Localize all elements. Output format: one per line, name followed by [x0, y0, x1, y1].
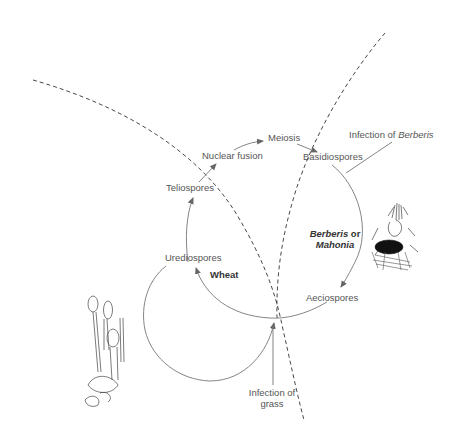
teliospore-cluster-illustration — [85, 296, 124, 406]
urediospore-repeat-loop — [144, 266, 274, 381]
host-or-text: or — [348, 228, 360, 239]
left-boundary-dashed-line — [33, 80, 304, 420]
host-berberis-italic: Berberis — [310, 228, 349, 239]
rust-life-cycle-diagram — [0, 0, 457, 437]
label-nuclear-fusion: Nuclear fusion — [202, 150, 263, 161]
label-basidiospores: Basidiospores — [303, 151, 363, 162]
label-aeciospores: Aeciospores — [306, 292, 358, 303]
infection-berberis-prefix: Infection of — [349, 129, 398, 140]
annotation-infection-grass: Infection of grass — [240, 387, 304, 409]
right-boundary-dashed-line — [277, 33, 385, 318]
fusion-to-meiosis-arrow — [234, 141, 263, 150]
basidio-to-aecio-arc — [332, 165, 362, 287]
host-label-wheat: Wheat — [210, 269, 239, 280]
infection-grass-line1: Infection of — [249, 387, 295, 398]
host-mahonia-italic: Mahonia — [316, 239, 355, 250]
annotation-infection-berberis: Infection of Berberis — [349, 129, 434, 140]
infection-grass-line2: grass — [260, 398, 283, 409]
label-meiosis: Meiosis — [268, 132, 300, 143]
infection-berberis-italic: Berberis — [398, 129, 433, 140]
label-teliospores: Teliospores — [166, 182, 214, 193]
label-urediospores: Urediospores — [165, 252, 222, 263]
host-label-berberis-mahonia: Berberis or Mahonia — [303, 228, 367, 250]
aecial-cup-illustration — [372, 203, 418, 270]
telio-to-fusion-arrow — [199, 164, 216, 182]
